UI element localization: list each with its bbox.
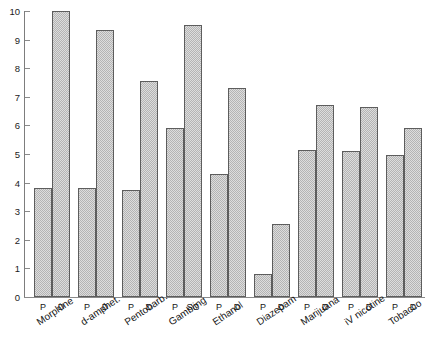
y-axis-tick-label: 10: [2, 7, 20, 16]
y-axis-tick-label: 8: [2, 64, 20, 73]
bar-morphine-p: [34, 188, 52, 297]
y-axis-tick: [25, 97, 30, 98]
bar-morphine-d: [52, 11, 70, 297]
y-axis-tick-label: 3: [2, 207, 20, 216]
y-axis-tick-label: 4: [2, 179, 20, 188]
y-axis-tick: [25, 297, 30, 298]
y-axis-tick-label: 2: [2, 236, 20, 245]
y-axis-tick: [25, 68, 30, 69]
bar-diazepam-p: [254, 274, 272, 297]
y-axis-tick: [25, 40, 30, 41]
bar-d-amphet--d: [96, 30, 114, 297]
bar-marijuana-p: [298, 150, 316, 297]
y-axis-tick-label: 1: [2, 264, 20, 273]
x-axis-line: [24, 297, 425, 298]
bar-pentobarb--p: [122, 190, 140, 297]
y-axis-tick: [25, 211, 30, 212]
bar-iv-nicotine-p: [342, 151, 360, 297]
bar-chart: 012345678910PDMorphinePDd-amphet.PDPento…: [0, 0, 425, 358]
bar-gambling-sg: [184, 25, 202, 297]
y-axis-tick-label: 6: [2, 121, 20, 130]
y-axis-tick: [25, 125, 30, 126]
bar-diazepam-d: [272, 224, 290, 297]
y-axis-tick: [25, 240, 30, 241]
bar-tobacco-p: [386, 155, 404, 297]
bar-gambling-p: [166, 128, 184, 297]
bar-ethanol-p: [210, 174, 228, 297]
y-axis-tick-label: 7: [2, 93, 20, 102]
bar-pentobarb--d: [140, 81, 158, 297]
y-axis-tick: [25, 183, 30, 184]
y-axis-tick: [25, 11, 30, 12]
y-axis-tick: [25, 154, 30, 155]
bar-d-amphet--p: [78, 188, 96, 297]
plot-area: [24, 11, 425, 297]
bar-marijuana-d: [316, 105, 334, 297]
y-axis-tick-label: 0: [2, 293, 20, 302]
y-axis-tick: [25, 268, 30, 269]
bar-iv-nicotine-d: [360, 107, 378, 297]
bar-tobacco-d: [404, 128, 422, 297]
bar-ethanol-d: [228, 88, 246, 297]
y-axis-tick-label: 5: [2, 150, 20, 159]
y-axis-tick-label: 9: [2, 36, 20, 45]
